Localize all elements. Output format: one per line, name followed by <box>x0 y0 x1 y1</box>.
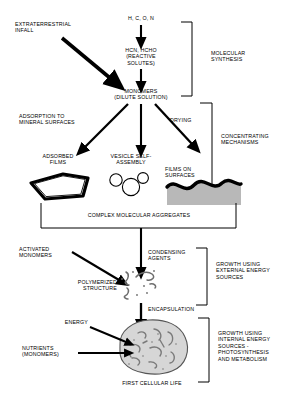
label-energy: ENERGY <box>65 319 88 325</box>
label-films-on-surfaces: FILMS ON SURFACES <box>165 166 195 179</box>
label-extraterrestrial-infall: EXTRATERRESTRIAL INFALL <box>15 21 71 34</box>
label-reactive-solutes: HCN, HCHO (REACTIVE SOLUTES) <box>125 47 156 66</box>
label-monomers-dilute: MONOMERS (DILUTE SOLUTION) <box>114 88 167 101</box>
label-concentrating-mechanisms: CONCENTRATING MECHANISMS <box>221 133 269 146</box>
label-first-cellular-life: FIRST CELLULAR LIFE <box>122 380 182 386</box>
adsorbed-films-shape <box>31 174 88 199</box>
label-condensing-agents: CONDENSING AGENTS <box>148 249 185 262</box>
arrow-energy-into-cell <box>90 327 126 342</box>
label-complex-aggregates: COMPLEX MOLECULAR AGGREGATES <box>88 212 190 218</box>
vesicle-circles-shape <box>110 173 149 196</box>
bracket-molecular-synthesis <box>181 22 192 96</box>
polymerized-structure-shape <box>121 270 156 299</box>
first-cell-shape <box>120 320 188 374</box>
arrow-extraterrestrial-infall <box>62 38 110 78</box>
arrow-activated-monomers <box>72 252 119 280</box>
bracket-concentrating-mechanisms <box>200 103 212 187</box>
label-source-elements: H, C, O, N <box>128 15 154 21</box>
label-growth-internal: GROWTH USING INTERNAL ENERGY SOURCES - P… <box>218 330 270 362</box>
label-polymerized-structure: POLYMERIZED STRUCTURE <box>78 279 117 292</box>
films-on-surfaces-shape <box>167 180 241 205</box>
label-adsorbed-films: ADSORBED FILMS <box>43 153 74 166</box>
bracket-growth-external <box>196 248 207 305</box>
label-growth-external: GROWTH USING EXTERNAL ENERGY SOURCES <box>216 261 270 280</box>
arrow-monomers-to-films <box>155 104 192 144</box>
origin-of-life-diagram: H, C, O, N EXTRATERRESTRIAL INFALL HCN, … <box>0 0 290 395</box>
label-adsorption-to-mineral-surfaces: ADSORPTION TO MINERAL SURFACES <box>19 113 75 126</box>
label-molecular-synthesis: MOLECULAR SYNTHESIS <box>211 50 245 63</box>
label-vesicle-self-assembly: VESICLE SELF- ASSEMBLY <box>111 153 152 166</box>
label-nutrients-monomers: NUTRIENTS (MONOMERS) <box>22 345 59 358</box>
label-activated-monomers: ACTIVATED MONOMERS <box>19 246 52 259</box>
label-drying: DRYING <box>170 117 191 123</box>
label-encapsulation: ENCAPSULATION <box>148 306 194 312</box>
arrow-monomers-to-adsorbed <box>85 104 128 147</box>
bracket-growth-internal <box>198 318 209 382</box>
